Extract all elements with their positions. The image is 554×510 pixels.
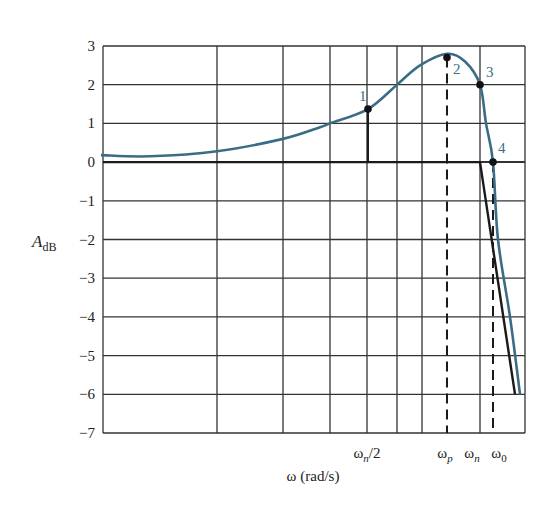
y-tick-label: −5 bbox=[79, 348, 95, 364]
point-label-3: 3 bbox=[486, 64, 494, 80]
y-tick-label: −2 bbox=[79, 232, 95, 248]
y-tick-label: 0 bbox=[88, 154, 96, 170]
data-series bbox=[101, 54, 520, 395]
y-tick-label: −1 bbox=[79, 193, 95, 209]
point-label-2: 2 bbox=[453, 61, 461, 77]
x-axis-label: ω (rad/s) bbox=[287, 468, 340, 485]
marked-point-1 bbox=[364, 105, 372, 113]
y-tick-label: −7 bbox=[79, 425, 95, 441]
frequency-response-chart: 3210−1−2−3−4−5−6−7 1234 ωn/2ωpωnω0 AdB ω… bbox=[0, 0, 554, 510]
y-axis-ticks: 3210−1−2−3−4−5−6−7 bbox=[79, 38, 95, 441]
y-tick-label: 2 bbox=[88, 77, 96, 93]
grid-lines bbox=[103, 46, 525, 433]
y-tick-label: 1 bbox=[88, 115, 96, 131]
point-label-4: 4 bbox=[498, 140, 506, 156]
marked-point-3 bbox=[476, 81, 484, 89]
x-axis-tick-labels: ωn/2ωpωnω0 bbox=[353, 445, 507, 464]
y-tick-label: −4 bbox=[79, 309, 95, 325]
x-tick-label: ωn bbox=[464, 445, 480, 464]
x-tick-label: ωp bbox=[437, 445, 453, 464]
y-tick-label: −3 bbox=[79, 270, 95, 286]
x-tick-label: ωn/2 bbox=[353, 445, 380, 464]
y-tick-label: 3 bbox=[88, 38, 96, 54]
y-tick-label: −6 bbox=[79, 386, 95, 402]
actual-response-curve bbox=[101, 54, 520, 395]
marked-point-2 bbox=[443, 54, 451, 62]
reference-lines bbox=[368, 58, 493, 433]
point-label-1: 1 bbox=[359, 88, 367, 104]
x-tick-label: ω0 bbox=[491, 445, 507, 464]
marked-point-4 bbox=[489, 158, 497, 166]
y-axis-label: AdB bbox=[31, 232, 56, 254]
